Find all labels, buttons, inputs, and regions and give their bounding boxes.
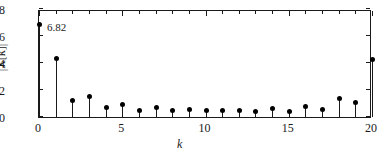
stem-plot-figure: 6.82 02468 05101520 |X[k]| k bbox=[0, 0, 387, 162]
x-tick-mark bbox=[305, 11, 306, 14]
stem-line bbox=[339, 99, 340, 117]
x-tick-mark bbox=[156, 11, 157, 14]
y-tick-mark bbox=[39, 8, 43, 9]
x-axis-title: k bbox=[177, 137, 182, 152]
x-tick-label: 10 bbox=[199, 121, 211, 136]
x-tick-mark bbox=[222, 11, 223, 14]
x-tick-label: 20 bbox=[365, 121, 377, 136]
x-tick-mark bbox=[289, 11, 290, 16]
x-tick-mark bbox=[339, 11, 340, 14]
stem-marker bbox=[204, 108, 209, 113]
stem-marker bbox=[87, 94, 92, 99]
x-tick-mark bbox=[189, 11, 190, 14]
x-tick-mark bbox=[355, 11, 356, 14]
x-tick-mark bbox=[272, 11, 273, 14]
stem-marker bbox=[220, 108, 225, 113]
stem-marker bbox=[104, 105, 109, 110]
x-tick-mark bbox=[106, 11, 107, 14]
x-tick-mark bbox=[322, 11, 323, 14]
plot-axes-frame: 6.82 bbox=[38, 10, 371, 118]
y-tick-label: 2 bbox=[0, 84, 5, 99]
stem-line bbox=[56, 58, 57, 117]
x-tick-mark bbox=[56, 11, 57, 14]
y-tick-label: 6 bbox=[0, 30, 5, 45]
stem-line bbox=[39, 25, 40, 117]
x-tick-mark bbox=[72, 11, 73, 14]
stem-marker bbox=[70, 98, 75, 103]
y-tick-mark bbox=[366, 35, 370, 36]
x-tick-label: 5 bbox=[118, 121, 124, 136]
stem-line bbox=[372, 60, 373, 117]
stem-marker bbox=[270, 106, 275, 111]
stem-marker bbox=[253, 109, 258, 114]
stem-line bbox=[89, 96, 90, 117]
stem-marker bbox=[287, 109, 292, 114]
stem-marker bbox=[320, 107, 325, 112]
stem-marker bbox=[154, 105, 159, 110]
stem-marker bbox=[353, 100, 358, 105]
y-tick-label: 0 bbox=[0, 111, 5, 126]
x-tick-label: 15 bbox=[282, 121, 294, 136]
y-tick-label: 8 bbox=[0, 3, 5, 18]
x-tick-mark bbox=[89, 11, 90, 14]
stem-marker bbox=[37, 22, 42, 27]
stem-marker bbox=[237, 108, 242, 113]
x-tick-mark bbox=[139, 11, 140, 14]
stem-marker bbox=[187, 107, 192, 112]
stem-marker bbox=[370, 57, 375, 62]
value-annotation: 6.82 bbox=[47, 21, 66, 33]
x-tick-mark bbox=[255, 11, 256, 14]
x-tick-mark bbox=[239, 11, 240, 14]
y-tick-mark bbox=[366, 8, 370, 9]
x-tick-mark bbox=[39, 11, 40, 16]
stem-marker bbox=[137, 108, 142, 113]
y-tick-mark bbox=[366, 62, 370, 63]
x-tick-mark bbox=[206, 11, 207, 16]
x-tick-mark bbox=[122, 11, 123, 16]
y-tick-mark bbox=[366, 116, 370, 117]
stem-line bbox=[72, 100, 73, 117]
x-tick-label: 0 bbox=[35, 121, 41, 136]
stem-marker bbox=[170, 108, 175, 113]
stem-marker bbox=[120, 102, 125, 107]
y-axis-title: |X[k]| bbox=[0, 44, 9, 71]
y-tick-mark bbox=[366, 89, 370, 90]
x-tick-mark bbox=[172, 11, 173, 14]
stem-marker bbox=[337, 96, 342, 101]
stem-marker bbox=[303, 104, 308, 109]
x-tick-mark bbox=[372, 11, 373, 16]
stem-marker bbox=[54, 56, 59, 61]
